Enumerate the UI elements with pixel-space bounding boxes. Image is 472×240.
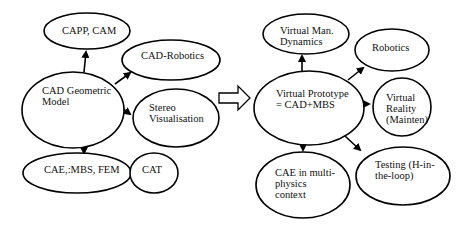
label-robotics: Robotics (372, 42, 409, 53)
label-cat: CAT (142, 164, 162, 175)
edge-cad-to-capp (84, 52, 86, 72)
label-stereo-visualisation: Stereo Visualisation (149, 102, 204, 124)
node-cad-geometric-model (22, 72, 124, 148)
label-virtual-man-dynamics: Virtual Man. Dynamics (280, 25, 334, 47)
hollow-right-arrow-icon (219, 86, 250, 110)
edge-vp-to-robotics (348, 68, 363, 80)
edge-cad-to-robotics (115, 73, 130, 84)
label-virtual-reality: Virtual Reality (Mainten) (386, 92, 428, 125)
label-capp-cam: CAPP, CAM (62, 25, 116, 36)
edge-vp-to-testing (345, 136, 360, 150)
label-cad-geometric-model: CAD Geometric Model (42, 85, 111, 107)
label-cad-robotics: CAD-Robotics (141, 50, 204, 61)
label-cae-multiphysics: CAE in multi- physics context (275, 167, 335, 200)
label-virtual-prototype: Virtual Prototype = CAD+MBS (276, 88, 349, 110)
label-cae-mbs-fem: CAE,:MBS, FEM (44, 164, 120, 175)
label-testing-hil: Testing (H-in- the-loop) (375, 159, 435, 181)
